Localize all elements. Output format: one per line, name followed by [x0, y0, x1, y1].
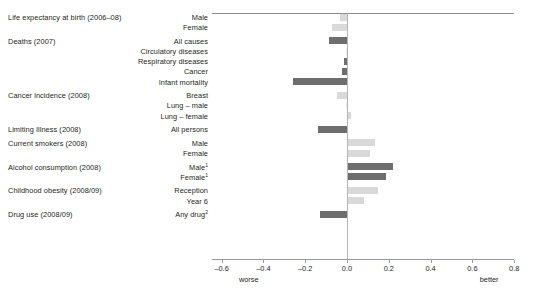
bar — [347, 187, 378, 194]
top-rule — [212, 13, 514, 14]
x-axis-line — [212, 259, 514, 260]
category-label: Circulatory diseases — [8, 47, 208, 56]
category-label: Year 6 — [8, 197, 208, 206]
bar — [318, 126, 347, 133]
category-label: All causes — [8, 37, 208, 46]
bar — [329, 37, 347, 44]
x-axis-tick — [222, 260, 223, 263]
bar — [347, 150, 370, 157]
bar — [320, 211, 347, 218]
category-label: Male1 — [8, 163, 208, 172]
plot-area: –0.6–0.4–0.20.00.20.40.60.8worsebetter — [212, 0, 514, 291]
zero-reference-line — [347, 13, 348, 259]
category-label: Breast — [8, 91, 208, 100]
footnote-marker: 1 — [205, 161, 208, 167]
indicator-bar-chart: Life expectancy at birth (2006–08)MaleFe… — [0, 0, 538, 291]
category-label: Reception — [8, 186, 208, 195]
label-column: Life expectancy at birth (2006–08)MaleFe… — [0, 0, 208, 291]
category-label: Respiratory diseases — [8, 57, 208, 66]
bar — [340, 14, 347, 21]
category-label: Male — [8, 139, 208, 148]
category-label: Female — [8, 149, 208, 158]
category-label: Infant mortality — [8, 78, 208, 87]
footnote-marker: 2 — [205, 209, 208, 215]
category-label: Lung – female — [8, 112, 208, 121]
category-label: Lung – male — [8, 101, 208, 110]
x-axis-tick-label: 0.4 — [425, 264, 435, 273]
x-axis-tick — [347, 260, 348, 263]
bar — [332, 24, 347, 31]
bar — [347, 139, 375, 146]
x-axis-tick-label: 0.8 — [509, 264, 519, 273]
bar — [347, 173, 386, 180]
category-label: Cancer — [8, 67, 208, 76]
x-axis-tick — [305, 260, 306, 263]
category-label: Female — [8, 23, 208, 32]
axis-end-label-worse: worse — [239, 275, 259, 284]
x-axis-tick-label: –0.4 — [256, 264, 270, 273]
bar — [347, 163, 393, 170]
x-axis-tick — [263, 260, 264, 263]
x-axis-tick-label: –0.6 — [214, 264, 228, 273]
x-axis-tick — [472, 260, 473, 263]
x-axis-tick-label: 0.2 — [384, 264, 394, 273]
x-axis-tick-label: 0.0 — [342, 264, 352, 273]
x-axis-tick — [514, 260, 515, 263]
category-label: All persons — [8, 125, 208, 134]
x-axis-tick — [431, 260, 432, 263]
category-label: Any drug2 — [8, 210, 208, 219]
x-axis-tick-label: 0.6 — [467, 264, 477, 273]
category-label: Male — [8, 13, 208, 22]
bar — [337, 92, 347, 99]
category-label: Female1 — [8, 173, 208, 182]
bar — [347, 197, 364, 204]
x-axis-tick — [389, 260, 390, 263]
x-axis-tick-label: –0.2 — [298, 264, 312, 273]
footnote-marker: 1 — [205, 171, 208, 177]
bar — [293, 78, 347, 85]
axis-end-label-better: better — [480, 275, 499, 284]
